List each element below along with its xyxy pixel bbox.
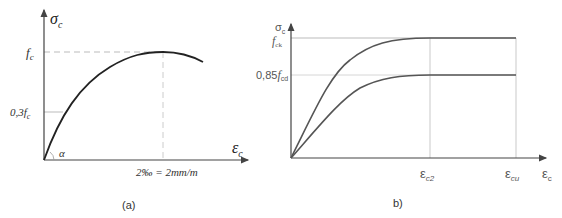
x-axis-label-b: εc: [542, 166, 552, 183]
fck-curve: [291, 38, 516, 158]
stress-strain-diagrams: σc fc 0,3fc α εc 2‰ = 2mm/m (a) σc fck 0…: [0, 0, 562, 218]
x-axis-label-a: εc: [232, 139, 243, 159]
y-axis-label-b: σc: [275, 21, 286, 35]
caption-a: (a): [122, 199, 135, 211]
caption-b: b): [393, 197, 403, 209]
diagram-b: σc fck 0,85fcd εc2 εcu εc b): [256, 21, 552, 209]
fcd-curve: [291, 75, 516, 158]
ec2-label: εc2: [420, 166, 435, 183]
stress-strain-curve-a: [44, 52, 203, 160]
03fc-label: 0,3fc: [10, 106, 31, 121]
y-axis-label-a: σc: [50, 10, 63, 30]
ecu-label: εcu: [505, 166, 520, 183]
fck-label: fck: [272, 34, 282, 49]
fcd-label: 0,85fcd: [256, 68, 288, 82]
fc-label: fc: [26, 45, 34, 62]
alpha-label: α: [59, 147, 65, 159]
diagram-a: σc fc 0,3fc α εc 2‰ = 2mm/m (a): [10, 10, 248, 211]
strain-tick-label: 2‰ = 2mm/m: [136, 166, 198, 178]
alpha-arc: [50, 152, 54, 160]
